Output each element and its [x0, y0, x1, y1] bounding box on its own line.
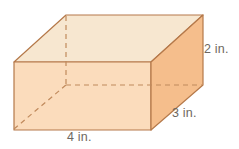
- width-dimension-label: 4 in.: [67, 131, 92, 144]
- prism-drawing: [0, 0, 239, 149]
- prism-figure: 2 in. 3 in. 4 in.: [0, 0, 239, 149]
- height-dimension-label: 2 in.: [204, 43, 229, 56]
- depth-dimension-label: 3 in.: [172, 107, 197, 120]
- prism-front-face: [14, 62, 151, 130]
